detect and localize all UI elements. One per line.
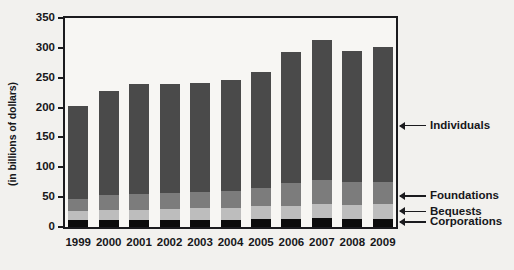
bar-segment-corporations <box>68 220 88 227</box>
bar-segment-individuals <box>99 91 119 196</box>
y-tick-label: 50 <box>21 191 55 203</box>
bar-segment-bequests <box>160 209 180 220</box>
callout-label: Individuals <box>430 120 490 132</box>
bar-segment-bequests <box>221 208 241 220</box>
bar-segment-foundations <box>373 182 393 205</box>
callout-arrow-icon <box>400 195 426 197</box>
bar-segment-corporations <box>251 219 271 227</box>
bar-segment-individuals <box>373 47 393 181</box>
bar-segment-foundations <box>190 192 210 208</box>
bar-2005 <box>251 72 271 227</box>
bar-segment-bequests <box>190 208 210 220</box>
bar-segment-bequests <box>68 211 88 221</box>
callout-arrow-icon <box>400 125 426 127</box>
plot-area <box>63 16 398 229</box>
bar-segment-foundations <box>281 183 301 205</box>
bar-segment-foundations <box>221 191 241 208</box>
bar-segment-foundations <box>160 193 180 209</box>
y-tick-label: 350 <box>21 12 55 24</box>
x-tick-label: 2009 <box>363 236 403 248</box>
bar-segment-individuals <box>68 106 88 199</box>
y-tick-label: 250 <box>21 72 55 84</box>
callout-corporations: Corporations <box>400 216 502 228</box>
bar-2002 <box>160 84 180 227</box>
bar-segment-bequests <box>312 204 332 218</box>
bar-segment-foundations <box>68 199 88 211</box>
bar-segment-individuals <box>251 72 271 188</box>
bar-2003 <box>190 83 210 227</box>
bar-segment-individuals <box>190 83 210 192</box>
bar-segment-corporations <box>342 219 362 227</box>
bar-segment-foundations <box>99 195 119 210</box>
bar-segment-bequests <box>373 204 393 218</box>
bar-segment-corporations <box>221 220 241 227</box>
bar-1999 <box>68 106 88 227</box>
bar-segment-bequests <box>99 210 119 220</box>
callout-label: Foundations <box>430 190 499 202</box>
bar-segment-foundations <box>342 182 362 205</box>
bar-segment-corporations <box>129 220 149 227</box>
bar-segment-individuals <box>312 40 332 180</box>
bar-segment-foundations <box>251 188 271 206</box>
bar-segment-individuals <box>129 84 149 193</box>
bar-segment-bequests <box>342 205 362 219</box>
bar-2007 <box>312 40 332 227</box>
y-tick-label: 0 <box>21 221 55 233</box>
bar-2001 <box>129 84 149 227</box>
bar-segment-bequests <box>129 210 149 220</box>
bar-segment-corporations <box>190 220 210 227</box>
bar-segment-foundations <box>312 180 332 203</box>
bar-segment-corporations <box>160 220 180 227</box>
callout-label: Corporations <box>430 216 502 228</box>
y-axis-title: (in billions of dollars) <box>6 54 18 214</box>
bar-2000 <box>99 91 119 227</box>
callout-foundations: Foundations <box>400 190 499 202</box>
bar-segment-corporations <box>281 219 301 227</box>
bar-segment-foundations <box>129 194 149 211</box>
callout-individuals: Individuals <box>400 119 490 131</box>
bar-2008 <box>342 51 362 227</box>
bar-2006 <box>281 52 301 227</box>
bar-2004 <box>221 80 241 227</box>
y-tick-label: 200 <box>21 102 55 114</box>
bar-2009 <box>373 47 393 227</box>
bar-segment-individuals <box>281 52 301 183</box>
bar-segment-individuals <box>342 51 362 181</box>
y-tick-label: 150 <box>21 131 55 143</box>
y-tick-label: 300 <box>21 42 55 54</box>
callout-arrow-icon <box>400 211 426 213</box>
bar-segment-corporations <box>312 218 332 227</box>
stacked-bar-chart: (in billions of dollars) 050100150200250… <box>0 0 514 270</box>
bar-segment-bequests <box>281 206 301 220</box>
bar-segment-bequests <box>251 206 271 219</box>
bar-segment-individuals <box>160 84 180 193</box>
bar-segment-corporations <box>99 220 119 227</box>
y-tick-label: 100 <box>21 161 55 173</box>
bar-segment-corporations <box>373 219 393 227</box>
bar-segment-individuals <box>221 80 241 192</box>
callout-arrow-icon <box>400 221 426 223</box>
